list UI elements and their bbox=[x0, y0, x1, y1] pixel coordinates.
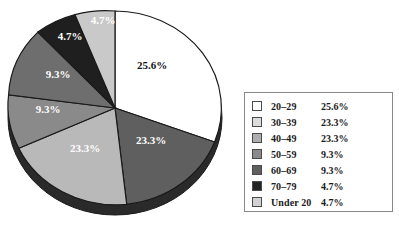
legend-value-30-39: 23.3% bbox=[321, 117, 349, 128]
chart-legend: 20–29 25.6% 30–39 23.3% 40–49 23.3% 50–5… bbox=[244, 92, 393, 212]
legend-value-under-20: 4.7% bbox=[321, 197, 344, 208]
legend-value-20-29: 25.6% bbox=[321, 101, 349, 112]
legend-item-20-29[interactable]: 20–29 25.6% bbox=[252, 98, 392, 114]
legend-swatch-icon-70-79 bbox=[252, 181, 262, 191]
slice-label-40-49: 23.3% bbox=[136, 134, 166, 146]
slice-label-70-79: 4.7% bbox=[58, 30, 83, 42]
chart-canvas: 25.6% 23.3% 23.3% 9.3% 9.3% 4.7% 4.7% 20… bbox=[0, 0, 399, 231]
legend-swatch-icon-60-69 bbox=[252, 165, 262, 175]
slice-label-under-20: 4.7% bbox=[91, 14, 116, 26]
legend-item-70-79[interactable]: 70–79 4.7% bbox=[252, 178, 392, 194]
legend-label-60-69: 60–69 bbox=[271, 165, 321, 176]
legend-swatch-icon-30-39 bbox=[252, 117, 262, 127]
slice-label-60-69: 9.3% bbox=[46, 68, 71, 80]
legend-label-30-39: 30–39 bbox=[271, 117, 321, 128]
legend-swatch-icon-40-49 bbox=[252, 133, 262, 143]
legend-value-50-59: 9.3% bbox=[321, 149, 344, 160]
legend-label-under-20: Under 20 bbox=[271, 197, 321, 208]
legend-label-50-59: 50–59 bbox=[271, 149, 321, 160]
legend-swatch-icon-50-59 bbox=[252, 149, 262, 159]
pie-chart: 25.6% 23.3% 23.3% 9.3% 9.3% 4.7% 4.7% bbox=[0, 0, 240, 231]
legend-value-40-49: 23.3% bbox=[321, 133, 349, 144]
legend-item-under-20[interactable]: Under 20 4.7% bbox=[252, 194, 392, 210]
legend-item-30-39[interactable]: 30–39 23.3% bbox=[252, 114, 392, 130]
legend-swatch-icon-under-20 bbox=[252, 197, 262, 207]
legend-item-50-59[interactable]: 50–59 9.3% bbox=[252, 146, 392, 162]
legend-value-60-69: 9.3% bbox=[321, 165, 344, 176]
legend-value-70-79: 4.7% bbox=[321, 181, 344, 192]
slice-label-30-39: 23.3% bbox=[70, 142, 100, 154]
legend-label-70-79: 70–79 bbox=[271, 181, 321, 192]
legend-swatch-icon-20-29 bbox=[252, 101, 262, 111]
slice-label-20-29: 25.6% bbox=[137, 59, 167, 71]
slice-label-50-59: 9.3% bbox=[36, 103, 61, 115]
legend-label-20-29: 20–29 bbox=[271, 101, 321, 112]
legend-item-60-69[interactable]: 60–69 9.3% bbox=[252, 162, 392, 178]
legend-item-40-49[interactable]: 40–49 23.3% bbox=[252, 130, 392, 146]
legend-label-40-49: 40–49 bbox=[271, 133, 321, 144]
